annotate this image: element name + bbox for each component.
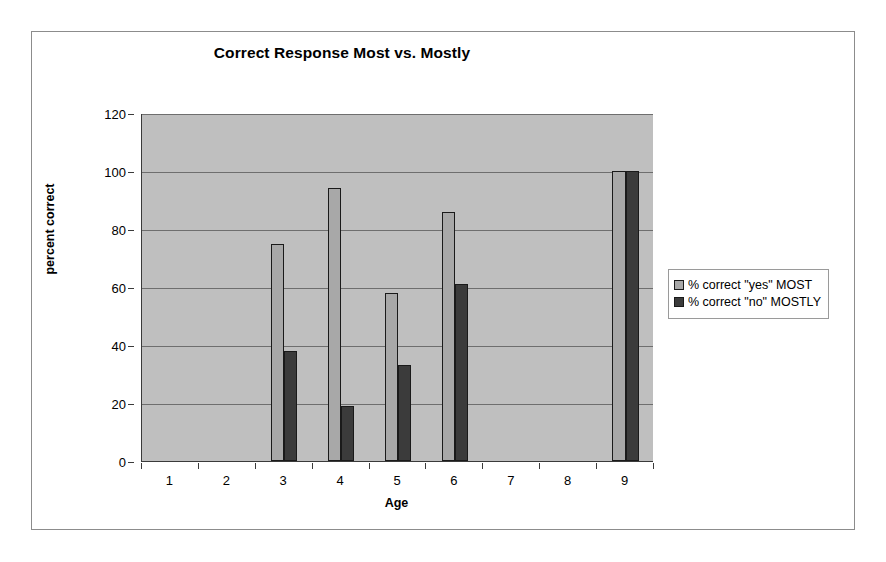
- y-tick-mark: [128, 230, 134, 231]
- x-tick-mark: [369, 463, 370, 469]
- legend-swatch-icon: [674, 297, 684, 307]
- gridline: [142, 114, 653, 115]
- bar: [626, 171, 639, 461]
- x-tick-mark: [198, 463, 199, 469]
- legend-item: % correct "no" MOSTLY: [674, 295, 821, 309]
- bar: [398, 365, 411, 461]
- y-tick-label: 60: [112, 281, 126, 296]
- chart-legend: % correct "yes" MOST% correct "no" MOSTL…: [668, 269, 829, 319]
- x-tick-mark: [255, 463, 256, 469]
- y-tick-label: 120: [104, 107, 126, 122]
- legend-label: % correct "yes" MOST: [688, 278, 812, 292]
- y-tick-label: 80: [112, 223, 126, 238]
- y-tick-mark: [128, 114, 134, 115]
- bar: [328, 188, 341, 461]
- x-tick-label: 3: [280, 473, 287, 488]
- legend-label: % correct "no" MOSTLY: [688, 295, 821, 309]
- x-tick-mark: [312, 463, 313, 469]
- y-tick-mark: [128, 404, 134, 405]
- y-tick-mark: [128, 172, 134, 173]
- x-tick-mark: [482, 463, 483, 469]
- bar: [271, 244, 284, 462]
- y-tick-label: 100: [104, 165, 126, 180]
- x-tick-mark: [539, 463, 540, 469]
- bar: [341, 406, 354, 461]
- bar: [385, 293, 398, 461]
- bar: [442, 212, 455, 461]
- bar: [455, 284, 468, 461]
- plot-area: [141, 114, 653, 462]
- y-tick-label: 40: [112, 339, 126, 354]
- x-tick-mark: [653, 463, 654, 469]
- y-axis: 020406080100120: [72, 114, 134, 461]
- x-tick-label: 5: [393, 473, 400, 488]
- x-tick-label: 2: [223, 473, 230, 488]
- x-tick-label: 4: [336, 473, 343, 488]
- legend-item: % correct "yes" MOST: [674, 278, 821, 292]
- x-tick-label: 1: [166, 473, 173, 488]
- x-axis: 123456789: [141, 463, 652, 489]
- y-axis-title: percent correct: [43, 139, 57, 319]
- gridline: [142, 172, 653, 173]
- bar: [284, 351, 297, 461]
- x-tick-label: 9: [621, 473, 628, 488]
- x-tick-mark: [596, 463, 597, 469]
- x-tick-label: 6: [450, 473, 457, 488]
- gridline: [142, 288, 653, 289]
- gridline: [142, 230, 653, 231]
- x-axis-title: Age: [141, 496, 652, 510]
- bar: [612, 171, 625, 461]
- legend-swatch-icon: [674, 280, 684, 290]
- y-tick-mark: [128, 288, 134, 289]
- y-tick-mark: [128, 462, 134, 463]
- y-tick-mark: [128, 346, 134, 347]
- x-tick-label: 8: [564, 473, 571, 488]
- y-tick-label: 0: [119, 455, 126, 470]
- chart-title: Correct Response Most vs. Mostly: [32, 44, 652, 62]
- y-tick-label: 20: [112, 397, 126, 412]
- chart-figure: Correct Response Most vs. Mostly percent…: [31, 31, 855, 530]
- x-tick-mark: [425, 463, 426, 469]
- x-tick-label: 7: [507, 473, 514, 488]
- x-tick-mark: [141, 463, 142, 469]
